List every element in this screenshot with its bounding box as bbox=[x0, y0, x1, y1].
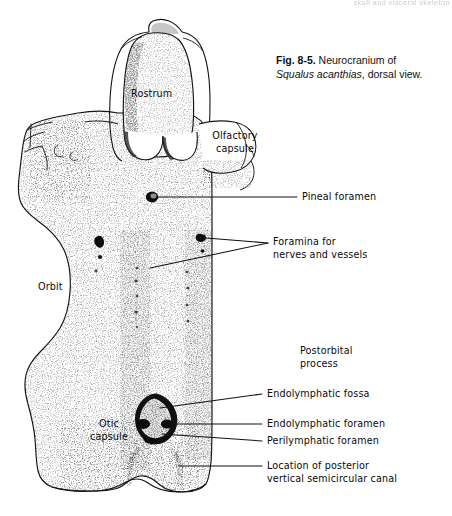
pineal-foramen-mark bbox=[146, 192, 158, 203]
label-otic-capsule: Otic capsule bbox=[86, 418, 132, 443]
figure-page: skull and visceral skeleton Fig. 8-5. Ne… bbox=[0, 0, 452, 516]
neurocranium-illustration bbox=[0, 0, 452, 516]
label-postorbital-process: Postorbital process bbox=[300, 345, 353, 370]
label-pineal-foramen: Pineal foramen bbox=[302, 191, 376, 204]
label-olfactory-capsule: Olfactory capsule bbox=[204, 130, 266, 155]
label-rostrum: Rostrum bbox=[131, 88, 172, 101]
label-posterior-semicircular-canal: Location of posterior vertical semicircu… bbox=[267, 460, 397, 485]
label-perilymphatic-foramen: Perilymphatic foramen bbox=[267, 435, 379, 448]
label-orbit: Orbit bbox=[38, 281, 63, 294]
label-endolymphatic-fossa: Endolymphatic fossa bbox=[267, 388, 370, 401]
label-endolymphatic-foramen: Endolymphatic foramen bbox=[267, 418, 385, 431]
leader-foramina-upper bbox=[206, 238, 268, 243]
label-foramina-nerves-vessels: Foramina for nerves and vessels bbox=[273, 236, 368, 261]
